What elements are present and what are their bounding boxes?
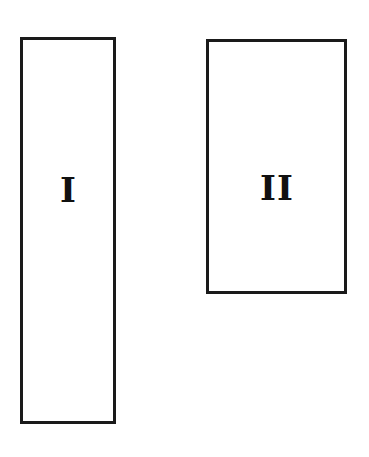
rectangle-two-label: II [260, 171, 294, 205]
rectangle-one: I [20, 37, 116, 424]
diagram-canvas: I II [0, 0, 369, 457]
rectangle-two: II [206, 39, 347, 294]
rectangle-one-label: I [60, 173, 76, 207]
